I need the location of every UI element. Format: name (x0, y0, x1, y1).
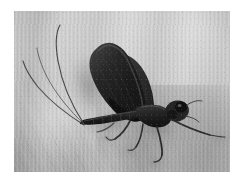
mayfly-macro-photograph (14, 11, 230, 172)
screenshot-root (0, 0, 244, 184)
photo-vignette (14, 11, 230, 172)
